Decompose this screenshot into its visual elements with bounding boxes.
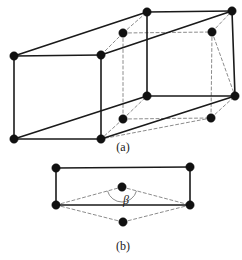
lattice-point-a-mid-bot-right — [231, 92, 239, 100]
lattice-point-a-back-top-mid — [143, 8, 151, 16]
lattice-point-a-inner-top-left — [119, 29, 127, 37]
lattice-point-b-center-upper — [118, 183, 126, 191]
lattice-point-a-inner-bot-right — [207, 114, 215, 122]
solid-edge-b-top-left--b-top-right — [56, 167, 190, 168]
lattice-point-a-front-top-left — [10, 52, 18, 60]
lattice-point-a-inner-bot-left — [119, 115, 127, 123]
lattice-point-b-bot-left — [52, 201, 60, 209]
lattice-point-a-inner-top-right — [208, 28, 216, 36]
lattice-point-a-back-top-right — [228, 7, 236, 15]
lattice-point-b-bot-right — [186, 201, 194, 209]
crystal-structure-figure: β (a)(b) — [0, 0, 242, 260]
lattice-point-b-top-left — [52, 164, 60, 172]
lattice-point-a-front-top-mid — [97, 51, 105, 59]
caption-a: (a) — [116, 140, 129, 154]
angle-label-beta: β — [122, 193, 129, 207]
lattice-point-a-front-bot-left — [10, 135, 18, 143]
lattice-point-a-mid-bot-left — [143, 92, 151, 100]
caption-b: (b) — [116, 239, 130, 253]
angle-label-group: β — [122, 193, 129, 207]
solid-edge-a-front-top-left--a-front-top-mid — [14, 55, 101, 56]
figure-canvas: β (a)(b) — [0, 0, 242, 260]
solid-edge-a-back-top-mid--a-back-top-right — [147, 11, 232, 12]
lattice-point-b-top-right — [186, 163, 194, 171]
lattice-point-a-front-bot-mid — [97, 135, 105, 143]
lattice-point-b-center-lower — [119, 218, 127, 226]
